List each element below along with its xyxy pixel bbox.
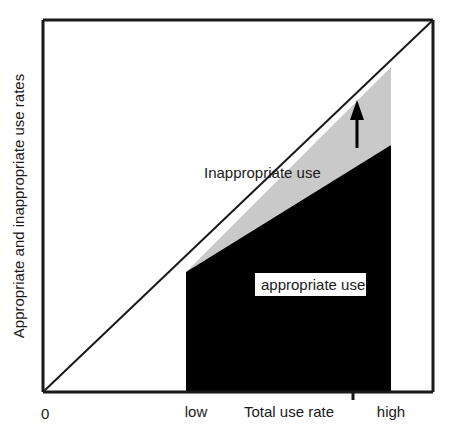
inappropriate-use-label: Inappropriate use bbox=[204, 164, 321, 181]
x-axis-tick-label-high: high bbox=[377, 403, 405, 420]
appropriate-use-label: appropriate use bbox=[261, 276, 365, 293]
x-axis-tick-label-origin: 0 bbox=[41, 405, 49, 422]
x-axis-tick-label-low: low bbox=[185, 403, 208, 420]
chart-figure: Inappropriate use appropriate use Approp… bbox=[0, 0, 459, 437]
chart-canvas: Inappropriate use appropriate use Approp… bbox=[0, 0, 459, 437]
x-axis-label: Total use rate bbox=[244, 403, 334, 420]
y-axis-label: Appropriate and inappropriate use rates bbox=[10, 74, 27, 338]
